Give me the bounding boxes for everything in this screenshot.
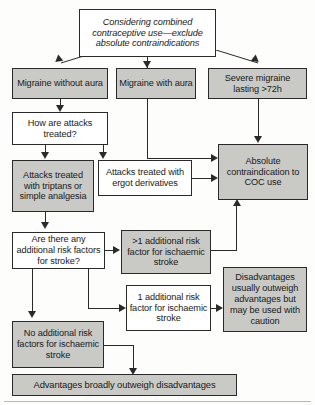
arrowhead-disadvantages	[216, 304, 223, 312]
node-no-risk: No additional risk factors for ischaemic…	[12, 321, 104, 368]
arrowhead-risk-question	[41, 222, 49, 229]
node-advantages: Advantages broadly outweigh disadvantage…	[12, 374, 237, 396]
node-more-than-one-risk: >1 additional risk factor for ischaemic …	[121, 230, 211, 274]
node-risk-factors-question: Are there any additional risk factors fo…	[12, 232, 105, 269]
arrowhead-ergot-to-absolute	[211, 174, 218, 182]
node-severe-migraine: Severe migraine lasting >72h	[208, 68, 307, 99]
connector-risk-question-to-no-risk	[32, 269, 33, 313]
arrowhead-severe-migraine-to-absolute	[254, 136, 262, 143]
arrowhead-ergot	[99, 152, 107, 159]
node-one-risk: 1 additional risk factor for ischaemic s…	[126, 285, 211, 331]
connector-more-than-one-to-absolute-v	[236, 204, 237, 251]
node-absolute-contraindication: Absolute contraindication to COC use	[218, 144, 308, 200]
node-triptans: Attacks treated with triptans or simple …	[12, 160, 94, 212]
arrowhead-no-risk	[28, 311, 36, 318]
connector-risk-question-to-one-risk-v	[88, 269, 89, 309]
node-start: Considering combined contraceptive use—e…	[79, 9, 216, 57]
node-ergot: Attacks treated with ergot derivatives	[98, 160, 192, 196]
connector-severe-migraine-to-absolute	[258, 99, 259, 138]
flowchart-canvas: Considering combined contraceptive use—e…	[0, 0, 315, 405]
connector-migraine-with-aura-down	[147, 99, 148, 158]
node-disadvantages: Disadvantages usually outweigh advantage…	[223, 267, 307, 332]
footer-divider	[4, 401, 311, 402]
arrowhead-start-to-migraine-with-aura	[143, 61, 151, 68]
connector-more-than-one-to-absolute-h	[211, 250, 237, 251]
node-migraine-without-aura: Migraine without aura	[12, 68, 108, 99]
arrowhead-migraine-with-aura-to-absolute	[211, 154, 218, 162]
connector-risk-question-to-one-risk-h	[88, 308, 121, 309]
arrowhead-one-risk	[119, 304, 126, 312]
connector-migraine-with-aura-to-absolute	[147, 158, 213, 159]
arrowhead-triptans	[41, 152, 49, 159]
arrowhead-more-than-one-risk	[113, 246, 120, 254]
connector-no-risk-to-advantages-h	[104, 345, 134, 346]
connector-start-to-severe-migraine	[214, 50, 266, 66]
arrowhead-how-treated	[56, 105, 64, 112]
node-migraine-with-aura: Migraine with aura	[116, 68, 196, 99]
node-how-treated: How are attacks treated?	[12, 112, 108, 145]
connector-ergot-to-absolute	[192, 178, 213, 179]
arrowhead-more-than-one-to-absolute	[233, 199, 241, 206]
